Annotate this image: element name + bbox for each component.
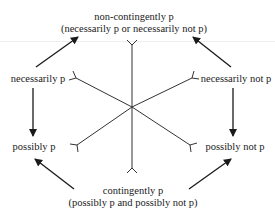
spoke-upper-left <box>76 78 132 107</box>
label-non-contingently-p: non-contingently p <box>94 11 174 23</box>
label-non-contingently-p-definition: (necessarily p or necessarily not p) <box>61 23 207 35</box>
label-possibly-p: possibly p <box>13 141 56 153</box>
label-necessarily-p: necessarily p <box>11 73 66 85</box>
arrow-contingent-to-poss-p <box>35 159 74 189</box>
fork-icon-lower-left <box>70 144 78 152</box>
label-possibly-not-p: possibly not p <box>206 141 265 153</box>
fork-icon-lower-right <box>190 143 197 152</box>
label-contingently-p: contingently p <box>103 185 163 197</box>
arrows <box>33 37 233 189</box>
label-necessarily-not-p: necessarily not p <box>201 73 272 85</box>
arrow-contingent-to-poss-not-p <box>189 159 231 189</box>
arrow-nec-not-p-to-noncontingent <box>193 37 231 67</box>
fork-icon-upper-left <box>69 71 76 80</box>
fork-icon-upper-right <box>192 71 199 79</box>
arrow-nec-p-to-noncontingent <box>36 37 78 67</box>
spoke-lower-right <box>132 107 190 145</box>
spoke-lower-left <box>77 107 132 145</box>
fork-icon-top <box>127 40 137 45</box>
spoke-upper-right <box>132 78 192 107</box>
center-spokes <box>76 45 192 168</box>
fork-icon-bottom <box>127 168 137 173</box>
label-contingently-p-definition: (possibly p and possibly not p) <box>68 197 197 209</box>
